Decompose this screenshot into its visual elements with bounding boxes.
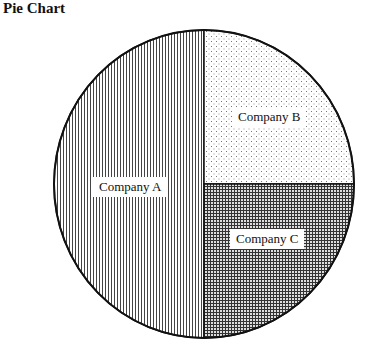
label-company-c: Company C xyxy=(230,229,304,249)
label-company-b: Company B xyxy=(232,107,306,127)
label-company-a: Company A xyxy=(93,177,167,197)
slice-company-c xyxy=(204,184,354,338)
pie-chart xyxy=(0,0,370,350)
